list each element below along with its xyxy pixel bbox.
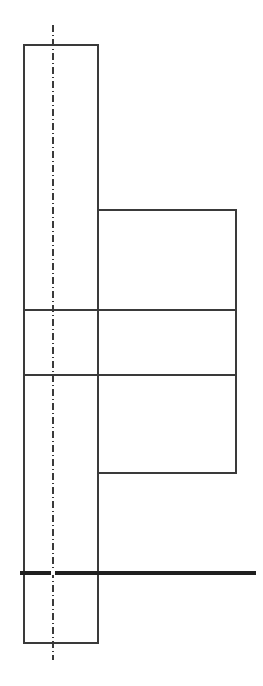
technical-drawing-canvas xyxy=(0,0,263,686)
drawing-svg-root xyxy=(0,0,263,686)
right-hub-block-outline xyxy=(98,210,236,473)
axis-intersection-point xyxy=(51,571,56,576)
tall-flange-body-outline xyxy=(24,45,98,643)
